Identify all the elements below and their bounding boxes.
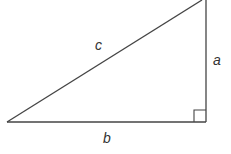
right-triangle-diagram: c a b <box>0 0 231 154</box>
label-b: b <box>103 130 111 146</box>
label-a: a <box>213 52 221 68</box>
right-angle-marker <box>194 110 206 122</box>
side-c-line <box>7 0 202 122</box>
label-c: c <box>95 37 102 53</box>
